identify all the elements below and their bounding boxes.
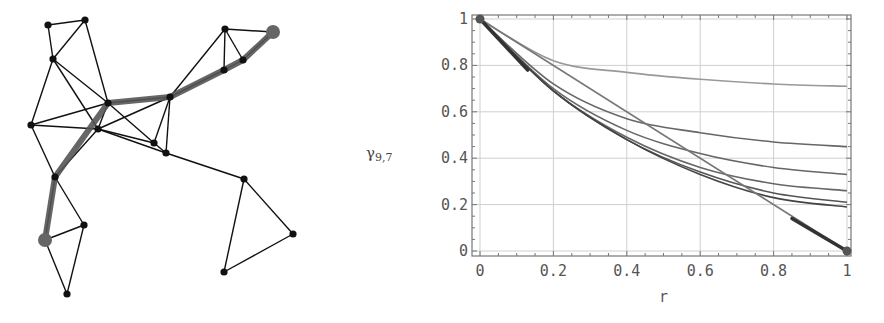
graph-edge [53, 20, 85, 59]
endpoint-node [38, 233, 52, 247]
y-tick-label: 1 [459, 10, 468, 28]
x-tick-label: 0.8 [760, 262, 787, 280]
graph-node [166, 93, 173, 100]
graph-node [104, 99, 111, 106]
graph-node [80, 221, 87, 228]
graph-edge [225, 29, 243, 60]
graph-node [94, 125, 101, 132]
graph-edge [67, 225, 84, 294]
graph-edge [85, 20, 108, 103]
y-tick-label: 0.4 [441, 149, 468, 167]
graph-node [239, 56, 246, 63]
gamma-chart: 00.20.40.60.8100.20.40.60.81rγ9,7 [340, 0, 884, 323]
y-tick-label: 0.6 [441, 103, 468, 121]
y-axis-title: γ9,7 [366, 144, 392, 164]
graph-node [162, 149, 169, 156]
graph-edge [53, 59, 108, 103]
network-graph-svg [0, 0, 320, 323]
graph-node [220, 268, 227, 275]
graph-node [49, 55, 56, 62]
graph-edge [244, 179, 293, 234]
graph-edge [48, 25, 53, 59]
endpoint-marker [843, 247, 852, 256]
x-tick-label: 1 [842, 262, 851, 280]
graph-edge [224, 29, 225, 70]
graph-edge [53, 59, 98, 129]
gamma-chart-svg: 00.20.40.60.8100.20.40.60.81rγ9,7 [340, 0, 884, 323]
graph-edge [48, 20, 85, 25]
y-tick-label: 0.2 [441, 196, 468, 214]
graph-edge [170, 29, 225, 97]
graph-node [81, 16, 88, 23]
graph-node [289, 230, 296, 237]
graph-edge [225, 29, 273, 32]
graph-edge [166, 153, 244, 179]
graph-node [240, 175, 247, 182]
graph-edge [224, 234, 293, 272]
tangent-segment [792, 219, 847, 251]
endpoint-node [266, 25, 280, 39]
series-curve-1 [480, 19, 847, 86]
graph-node [44, 21, 51, 28]
series-curve-3 [480, 19, 847, 174]
graph-node [63, 290, 70, 297]
y-tick-label: 0.8 [441, 56, 468, 74]
graph-node [221, 25, 228, 32]
x-tick-label: 0.2 [540, 262, 567, 280]
x-tick-label: 0 [475, 262, 484, 280]
graph-edge [224, 179, 244, 272]
x-tick-label: 0.6 [687, 262, 714, 280]
graph-node [150, 139, 157, 146]
network-graph [0, 0, 320, 323]
graph-node [27, 121, 34, 128]
graph-node [220, 66, 227, 73]
series-curve-4 [480, 19, 847, 191]
highlighted-path [45, 32, 273, 240]
series-curve-6 [480, 19, 847, 207]
x-tick-label: 0.4 [613, 262, 640, 280]
graph-edge [31, 59, 53, 125]
series-curve-2 [480, 19, 847, 147]
graph-edge [45, 240, 67, 294]
x-axis-title: r [659, 288, 668, 306]
endpoint-marker [476, 15, 485, 24]
series-diagonal [480, 19, 847, 251]
graph-node [51, 173, 58, 180]
y-tick-label: 0 [459, 242, 468, 260]
graph-edge [55, 177, 84, 225]
graph-edge [31, 125, 55, 177]
series-curve-5 [480, 19, 847, 202]
